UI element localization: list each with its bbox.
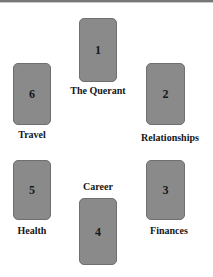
tarot-card-3-label: Finances (136, 225, 202, 236)
tarot-card-4-label: Career (64, 181, 132, 192)
tarot-card-3[interactable]: 3 (146, 160, 185, 220)
tarot-card-6-number: 6 (29, 88, 35, 100)
tarot-card-6-label: Travel (2, 129, 62, 140)
top-border-rule-soft (0, 2, 213, 3)
tarot-card-1-number: 1 (95, 44, 101, 56)
tarot-card-2-label: Relationships (128, 132, 212, 143)
tarot-card-1[interactable]: 1 (79, 18, 117, 82)
tarot-card-2-number: 2 (163, 88, 169, 100)
tarot-card-2[interactable]: 2 (146, 63, 185, 125)
tarot-spread-diagram: 1 The Querant 6 Travel 2 Relationships 5… (0, 0, 213, 277)
tarot-card-1-label: The Querant (58, 85, 138, 96)
tarot-card-5-label: Health (2, 225, 62, 236)
tarot-card-4-number: 4 (95, 226, 101, 238)
tarot-card-4[interactable]: 4 (79, 198, 117, 265)
tarot-card-5[interactable]: 5 (13, 160, 51, 220)
tarot-card-5-number: 5 (29, 184, 35, 196)
tarot-card-6[interactable]: 6 (13, 63, 51, 125)
tarot-card-3-number: 3 (163, 184, 169, 196)
